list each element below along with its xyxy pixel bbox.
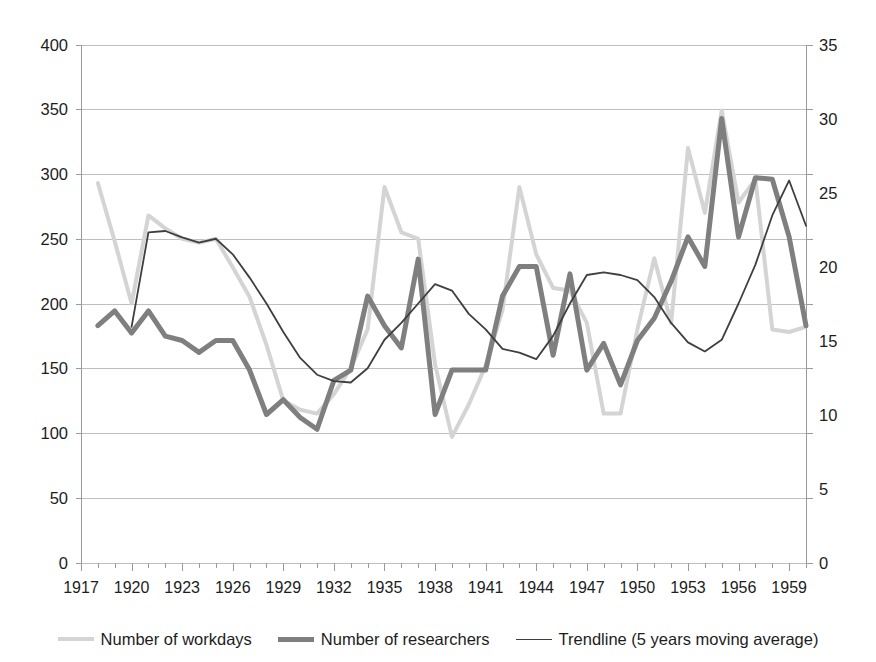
svg-text:1938: 1938 <box>417 579 453 596</box>
svg-text:400: 400 <box>40 36 68 54</box>
svg-text:1941: 1941 <box>468 579 504 596</box>
svg-text:1947: 1947 <box>569 579 605 596</box>
y-axis-right-labels: 05101520253035 <box>819 36 837 572</box>
series-path-0 <box>98 111 806 437</box>
svg-text:1926: 1926 <box>215 579 251 596</box>
svg-text:20: 20 <box>819 258 837 276</box>
line-swatch-icon <box>58 637 94 641</box>
x-tickmarks-group <box>76 46 813 571</box>
svg-text:1959: 1959 <box>771 579 807 596</box>
line-swatch-icon <box>278 637 314 642</box>
legend-item-trendline: Trendline (5 years moving average) <box>516 630 819 649</box>
svg-text:10: 10 <box>819 406 837 424</box>
line-swatch-icon <box>516 639 552 640</box>
svg-text:15: 15 <box>819 332 837 350</box>
svg-text:1944: 1944 <box>518 579 554 596</box>
svg-text:1929: 1929 <box>266 579 302 596</box>
x-axis-labels: 1917192019231926192919321935193819411944… <box>63 579 807 596</box>
svg-text:25: 25 <box>819 184 837 202</box>
legend-label-trendline: Trendline (5 years moving average) <box>559 630 819 649</box>
svg-text:1932: 1932 <box>316 579 352 596</box>
svg-text:200: 200 <box>40 295 68 313</box>
svg-text:1923: 1923 <box>164 579 200 596</box>
svg-text:1917: 1917 <box>63 579 99 596</box>
svg-text:150: 150 <box>40 359 68 377</box>
legend-item-researchers: Number of researchers <box>278 630 490 649</box>
data-series-group <box>98 111 806 437</box>
svg-text:250: 250 <box>40 230 68 248</box>
svg-text:300: 300 <box>40 165 68 183</box>
svg-text:0: 0 <box>819 554 828 572</box>
svg-text:350: 350 <box>40 100 68 118</box>
axis-lines-group <box>82 45 807 563</box>
legend-label-workdays: Number of workdays <box>101 630 252 649</box>
svg-text:1953: 1953 <box>670 579 706 596</box>
svg-text:1920: 1920 <box>114 579 150 596</box>
legend-label-researchers: Number of researchers <box>321 630 490 649</box>
svg-text:1950: 1950 <box>620 579 656 596</box>
chart-container: 050100150200250300350400 05101520253035 … <box>0 0 876 662</box>
svg-text:35: 35 <box>819 36 837 54</box>
series-path-1 <box>98 119 806 430</box>
svg-text:30: 30 <box>819 110 837 128</box>
line-chart-plot: 050100150200250300350400 05101520253035 … <box>0 0 876 662</box>
y-axis-left-labels: 050100150200250300350400 <box>40 36 68 572</box>
gridlines-group <box>81 46 806 564</box>
chart-legend: Number of workdays Number of researchers… <box>0 624 876 654</box>
svg-text:1935: 1935 <box>367 579 403 596</box>
svg-text:50: 50 <box>50 489 68 507</box>
svg-text:1956: 1956 <box>721 579 757 596</box>
svg-text:0: 0 <box>59 554 68 572</box>
svg-text:5: 5 <box>819 480 828 498</box>
legend-item-workdays: Number of workdays <box>58 630 252 649</box>
svg-text:100: 100 <box>40 424 68 442</box>
